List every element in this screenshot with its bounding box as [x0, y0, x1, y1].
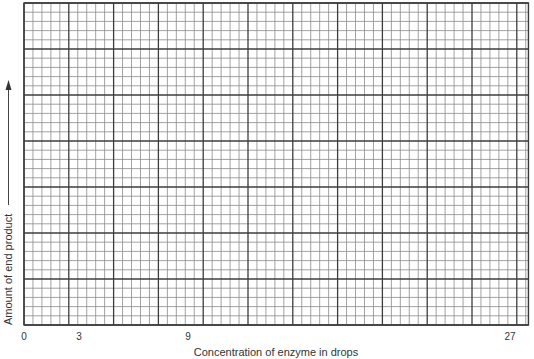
x-axis-label: Concentration of enzyme in drops: [194, 346, 359, 358]
x-tick-label: 0: [21, 331, 27, 342]
major-grid: [24, 3, 528, 325]
x-tick-label: 27: [504, 331, 516, 342]
y-axis-label-group: Amount of end product: [2, 80, 14, 325]
graph-paper-chart: 03927 Concentration of enzyme in drops A…: [0, 0, 534, 359]
x-tick-label: 3: [76, 331, 82, 342]
minor-grid: [24, 3, 528, 325]
x-tick-labels: 03927: [21, 331, 516, 342]
x-tick-label: 9: [185, 331, 191, 342]
y-axis-label: Amount of end product: [2, 214, 14, 325]
grid-border: [24, 3, 528, 325]
y-axis-arrow-icon: [6, 80, 12, 90]
